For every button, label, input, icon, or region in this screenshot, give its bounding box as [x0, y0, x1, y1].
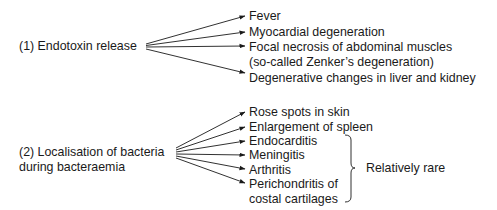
effect-meningitis: Meningitis: [249, 148, 305, 162]
endotoxin-arrows: [146, 16, 245, 73]
arrow-to-degenerative: [146, 49, 245, 73]
arrow-to-focal-necrosis: [146, 46, 245, 47]
arrow-to-arthritis: [176, 156, 245, 169]
effect-perichondritis: Perichondritis of: [249, 177, 338, 191]
effect-enlargement-spleen: Enlargement of spleen: [249, 120, 373, 134]
localisation-arrows: [176, 112, 245, 183]
effect-perichondritis-cont: costal cartilages: [249, 192, 338, 206]
effect-arthritis: Arthritis: [249, 163, 291, 177]
arrow-to-fever: [146, 16, 245, 44]
cause-endotoxin-release: (1) Endotoxin release: [19, 39, 137, 53]
cause-localisation-line1: (2) Localisation of bacteria: [19, 145, 164, 159]
arrow-to-meningitis: [176, 154, 245, 155]
effect-endocarditis: Endocarditis: [249, 134, 317, 148]
cause-localisation-line2: during bacteraemia: [19, 160, 125, 174]
effect-rose-spots: Rose spots in skin: [249, 105, 350, 119]
arrow-to-perichondritis: [176, 158, 245, 183]
arrow-to-myocardial: [146, 32, 245, 46]
effect-focal-necrosis: Focal necrosis of abdominal muscles: [249, 40, 452, 54]
effect-fever: Fever: [249, 9, 281, 23]
relatively-rare-note: Relatively rare: [366, 161, 445, 175]
effect-focal-necrosis-note: (so-called Zenker’s degeneration): [249, 55, 434, 69]
effect-myocardial-degeneration: Myocardial degeneration: [249, 25, 385, 39]
relatively-rare-brace: [345, 135, 355, 202]
effect-degenerative-changes: Degenerative changes in liver and kidney: [249, 71, 476, 85]
